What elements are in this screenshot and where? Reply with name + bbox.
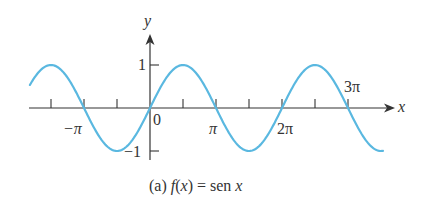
y-axis-label: y	[144, 13, 151, 29]
x-ticks	[51, 99, 348, 108]
x-axis-label: x	[398, 99, 405, 115]
x-tick-label-neg-pi: −π	[63, 121, 82, 137]
y-tick-label-neg1: −1	[124, 144, 141, 160]
x-tick-label-pi: π	[209, 121, 217, 137]
x-tick-label-3pi: 3π	[344, 79, 360, 95]
caption: (a) f(x) = sen x	[149, 178, 242, 194]
caption-prefix: (a)	[149, 177, 171, 194]
x-tick-label-origin: 0	[153, 112, 161, 128]
x-tick-label-2pi: 2π	[277, 121, 293, 137]
caption-x: x	[181, 177, 188, 194]
caption-equals: ) = sen	[188, 177, 236, 194]
caption-x2: x	[235, 177, 242, 194]
y-tick-label-1: 1	[138, 57, 146, 73]
